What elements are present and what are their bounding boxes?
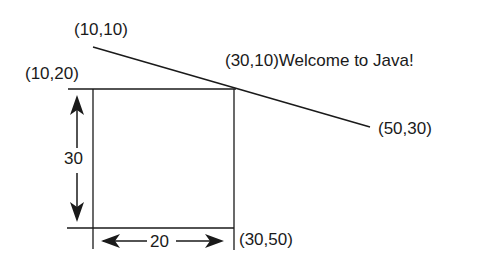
line-start-label: (10,10)	[74, 21, 128, 38]
width-dimension-label: 20	[150, 233, 169, 250]
rect-top-left-label: (10,20)	[25, 65, 79, 82]
text-label: (30,10)Welcome to Java!	[225, 52, 414, 69]
height-dimension-label: 30	[64, 150, 83, 167]
line-end-label: (50,30)	[378, 120, 432, 137]
rect-bottom-right-label: (30,50)	[239, 231, 293, 248]
